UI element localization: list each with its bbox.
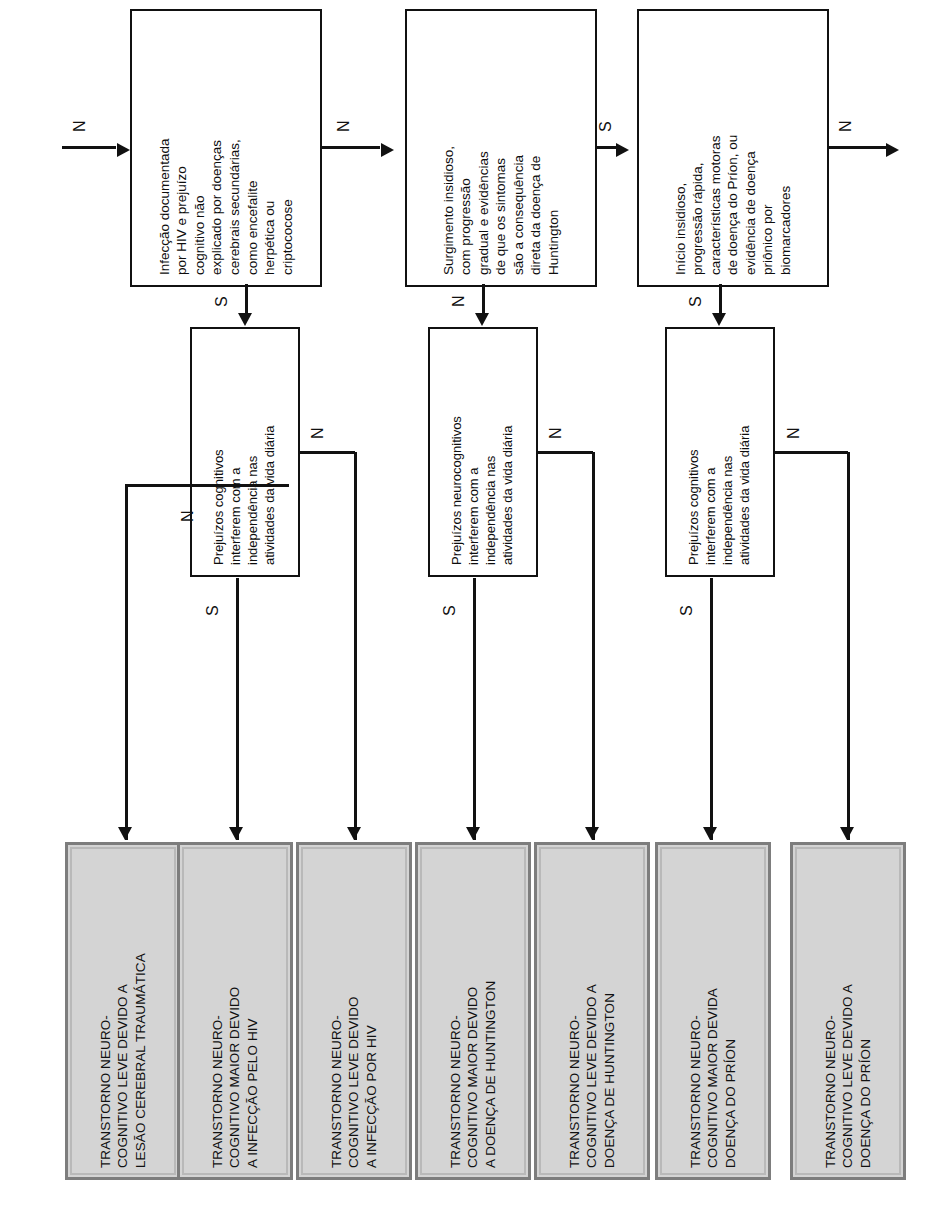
outcome-box-tnc-leve-prion[interactable]: TRANSTORNO NEURO- COGNITIVO LEVE DEVIDO … (790, 842, 906, 1180)
outcome-label: TRANSTORNO NEURO- COGNITIVO MAIOR DEVIDA… (687, 854, 740, 1168)
edge-label-crit-hunt-no: S (598, 121, 614, 132)
connector-dec-prion-yes (710, 578, 713, 840)
edge-label-crit-hiv-yes: S (214, 296, 230, 307)
outcome-box-tnc-leve-huntington[interactable]: TRANSTORNO NEURO- COGNITIVO LEVE DEVIDO … (534, 842, 650, 1180)
decision-box-prion[interactable]: Prejuízos cognitivos interferem com a in… (665, 327, 775, 577)
decision-box-hiv[interactable]: Prejuízos cognitivos interferem com a in… (190, 327, 300, 577)
connector-dec-hiv-no-h (354, 452, 357, 840)
edge-label-dec-hiv-no: N (310, 427, 326, 439)
outcome-box-tnc-leve-hiv[interactable]: TRANSTORNO NEURO- COGNITIVO LEVE DEVIDO … (296, 842, 412, 1180)
decision-label: Prejuízos cognitivos interferem com a in… (211, 339, 279, 565)
arrow-into-criteria-huntington (381, 143, 394, 157)
outcome-box-tnc-leve-tce[interactable]: TRANSTORNO NEURO- COGNITIVO LEVE DEVIDO … (65, 842, 181, 1180)
edge-label-dec-prion-no: N (786, 427, 802, 439)
arrow-into-outcome-tnc-leve-huntington (585, 827, 599, 840)
connector-dec-hunt-no-h (592, 452, 595, 840)
criteria-label: Início insidioso, progressão rápida, car… (672, 21, 795, 275)
decision-box-huntington[interactable]: Prejuízos neurocognitivos interferem com… (428, 327, 538, 577)
rotated-diagram-stage: TRANSTORNO NEURO- COGNITIVO LEVE DEVIDO … (0, 0, 941, 1222)
outcome-label: TRANSTORNO NEURO- COGNITIVO MAIOR DEVIDO… (447, 854, 500, 1168)
outcome-label: TRANSTORNO NEURO- COGNITIVO LEVE DEVIDO … (97, 854, 150, 1168)
arrow-into-decision-prion (712, 313, 726, 326)
connector-crit-hunt-no (597, 147, 617, 150)
connector-dec-hunt-no-v (537, 452, 593, 455)
arrow-into-outcome-tnc-maior-prion (703, 827, 717, 840)
arrow-into-decision-hiv (238, 313, 252, 326)
arrow-into-decision-huntington (475, 313, 489, 326)
decision-label: Prejuízos cognitivos interferem com a in… (686, 339, 754, 565)
flowchart-canvas: TRANSTORNO NEURO- COGNITIVO LEVE DEVIDO … (0, 0, 941, 1222)
edge-label-crit-prion-no: N (838, 120, 854, 132)
connector-tce-no-h (125, 485, 128, 840)
edge-label-crit-prion-yes: S (688, 296, 704, 307)
criteria-box-prion[interactable]: Início insidioso, progressão rápida, car… (637, 9, 829, 287)
edge-label-dec-hiv-yes: S (205, 605, 221, 616)
outcome-label: TRANSTORNO NEURO- COGNITIVO MAIOR DEVIDO… (209, 854, 262, 1168)
edge-label-crit-hunt-yes: N (451, 295, 467, 307)
connector-crit-hiv-yes (245, 284, 248, 314)
decision-label: Prejuízos neurocognitivos interferem com… (449, 339, 517, 565)
criteria-box-huntington[interactable]: Surgimento insidioso, com progressão gra… (405, 9, 597, 287)
arrow-into-criteria-hiv (117, 143, 130, 157)
connector-dec-hiv-no-v (299, 452, 355, 455)
outcome-box-tnc-maior-hiv[interactable]: TRANSTORNO NEURO- COGNITIVO MAIOR DEVIDO… (177, 842, 293, 1180)
connector-dec-hiv-yes (236, 578, 239, 840)
arrow-into-outcome-tnc-leve-prion (840, 827, 854, 840)
edge-label-tce-no: N (180, 510, 196, 522)
edge-label-dec-prion-yes: S (679, 605, 695, 616)
arrow-into-outcome-tnc-leve-hiv (347, 827, 361, 840)
outcome-box-tnc-maior-huntington[interactable]: TRANSTORNO NEURO- COGNITIVO MAIOR DEVIDO… (415, 842, 531, 1180)
edge-label-crit-hiv-no: N (336, 120, 352, 132)
connector-entry-line (62, 147, 116, 150)
connector-dec-prion-no-h (847, 452, 850, 840)
connector-crit-hunt-yes (482, 284, 485, 314)
arrow-into-criteria-prion (616, 143, 629, 157)
arrow-exit (886, 143, 899, 157)
connector-crit-prion-no (829, 147, 887, 150)
connector-dec-prion-no-v (774, 452, 848, 455)
connector-tce-no-v (125, 485, 289, 488)
edge-label-dec-hunt-yes: S (442, 605, 458, 616)
outcome-label: TRANSTORNO NEURO- COGNITIVO LEVE DEVIDO … (566, 854, 619, 1168)
outcome-box-tnc-maior-prion[interactable]: TRANSTORNO NEURO- COGNITIVO MAIOR DEVIDA… (655, 842, 771, 1180)
edge-label-entry-n: N (72, 120, 88, 132)
connector-crit-hiv-no (322, 147, 380, 150)
connector-crit-prion-yes (719, 284, 722, 314)
edge-label-dec-hunt-no: N (548, 427, 564, 439)
criteria-box-hiv[interactable]: Infecção documentada por HIV e prejuízo … (130, 9, 322, 287)
outcome-label: TRANSTORNO NEURO- COGNITIVO LEVE DEVIDO … (822, 854, 875, 1168)
arrow-into-outcome-tnc-maior-huntington (466, 827, 480, 840)
arrow-into-outcome-tnc-maior-hiv (229, 827, 243, 840)
connector-dec-hunt-yes (473, 578, 476, 840)
arrow-into-outcome-tnc-leve-tce (118, 827, 132, 840)
criteria-label: Infecção documentada por HIV e prejuízo … (156, 21, 296, 275)
outcome-label: TRANSTORNO NEURO- COGNITIVO LEVE DEVIDO … (328, 854, 381, 1168)
criteria-label: Surgimento insidioso, com progressão gra… (440, 21, 563, 275)
